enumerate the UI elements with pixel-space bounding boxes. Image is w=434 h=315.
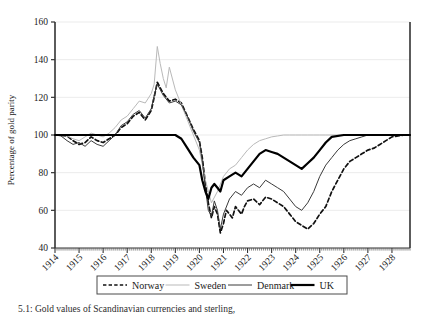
y-tick-label: 160 xyxy=(34,17,49,27)
legend-box: NorwaySwedenDenmarkUK xyxy=(97,276,347,294)
y-tick-label: 120 xyxy=(34,93,49,103)
y-tick-label: 80 xyxy=(39,168,49,178)
y-axis-label: Percentage of gold parity xyxy=(6,94,16,185)
y-tick-label: 40 xyxy=(39,243,49,253)
y-tick-label: 100 xyxy=(34,130,49,140)
legend-label-uk: UK xyxy=(320,280,335,291)
figure-caption: 5.1: Gold values of Scandinavian currenc… xyxy=(18,303,418,315)
gold-parity-line-chart: 406080100120140160 191419151916191719181… xyxy=(0,0,434,315)
y-tick-label: 140 xyxy=(34,55,49,65)
figure-container: 406080100120140160 191419151916191719181… xyxy=(0,0,434,315)
y-tick-label: 60 xyxy=(39,206,49,216)
legend-label-norway: Norway xyxy=(132,280,164,291)
legend-label-denmark: Denmark xyxy=(257,280,294,291)
legend-label-sweden: Sweden xyxy=(195,280,227,291)
